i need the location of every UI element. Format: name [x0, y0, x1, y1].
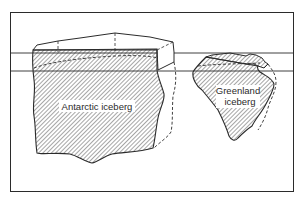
- greenland-label-line1: Greenland: [216, 85, 260, 96]
- greenland-iceberg: Greenland iceberg: [193, 53, 276, 140]
- greenland-label-line2: iceberg: [224, 96, 255, 107]
- iceberg-diagram: Antarctic iceberg Greenland iceberg: [0, 0, 302, 200]
- antarctic-iceberg: Antarctic iceberg: [33, 33, 176, 163]
- antarctic-label: Antarctic iceberg: [62, 101, 133, 112]
